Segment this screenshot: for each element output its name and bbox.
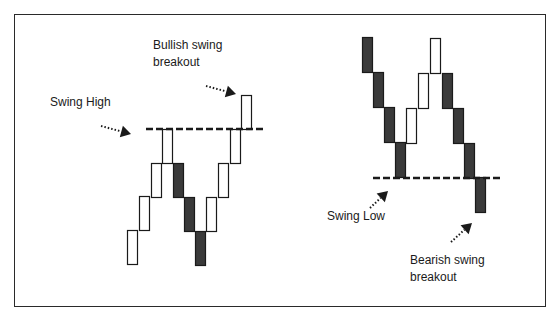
bullish-brick — [140, 197, 150, 231]
bearish-brick — [174, 164, 184, 198]
swing-low-arrow-shaft — [370, 198, 381, 208]
bearish-brick — [476, 178, 486, 213]
bullish-brick — [231, 130, 241, 164]
bullish-brick — [163, 130, 173, 164]
bullish-brick — [152, 164, 162, 198]
bullish-breakout-label-line1: Bullish swing — [153, 37, 222, 54]
swing-high-arrowhead-icon — [120, 126, 131, 138]
bearish-breakout-label: Bearish swing breakout — [410, 252, 485, 286]
swing-high-arrow-shaft — [101, 126, 121, 131]
bullish-brick — [419, 74, 429, 109]
bearish-breakout-arrow-shaft — [451, 230, 465, 242]
bullish-breakout-label-line2: breakout — [153, 54, 222, 71]
right-renko-bricks — [363, 38, 486, 213]
bearish-brick — [363, 38, 373, 73]
left-renko-bricks — [128, 96, 252, 266]
swing-high-label: Swing High — [50, 94, 111, 111]
bearish-brick — [185, 198, 195, 232]
bearish-brick — [443, 74, 453, 109]
bullish-breakout-arrowhead-icon — [225, 86, 236, 98]
bullish-brick — [219, 164, 229, 198]
support-resistance-lines — [146, 129, 501, 178]
bullish-breakout-arrow-shaft — [206, 86, 226, 91]
bearish-brick — [465, 144, 475, 179]
bullish-brick — [407, 109, 417, 144]
bearish-brick — [196, 232, 206, 266]
bearish-brick — [454, 109, 464, 144]
bearish-brick — [396, 143, 406, 178]
bearish-breakout-label-line2: breakout — [410, 269, 485, 286]
bearish-brick — [374, 73, 384, 108]
bullish-brick — [207, 198, 217, 232]
bearish-brick — [385, 108, 395, 143]
bullish-brick — [431, 39, 441, 74]
bullish-breakout-label: Bullish swing breakout — [153, 37, 222, 71]
swing-low-label: Swing Low — [327, 208, 385, 225]
bearish-breakout-label-line1: Bearish swing — [410, 252, 485, 269]
bullish-brick — [128, 231, 138, 265]
bullish-brick — [242, 96, 252, 130]
